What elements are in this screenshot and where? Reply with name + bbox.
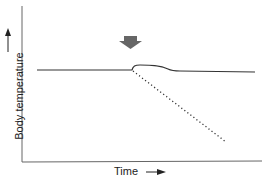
x-axis-label: Time xyxy=(114,165,138,177)
y-axis-arrow-icon xyxy=(5,28,11,36)
diagram-canvas xyxy=(0,0,266,189)
unregulated-curve xyxy=(133,71,226,142)
regulated-curve xyxy=(37,65,255,72)
event-arrow-icon xyxy=(119,36,142,49)
y-axis-label: Body temperature xyxy=(13,41,25,151)
x-axis xyxy=(22,161,262,162)
x-axis-arrow-icon xyxy=(157,169,166,175)
